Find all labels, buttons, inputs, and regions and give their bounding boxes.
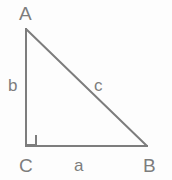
vertex-label-c: C [19, 156, 33, 175]
side-label-c: c [94, 77, 103, 94]
right-triangle-diagram: A C B b c a [0, 0, 172, 180]
side-label-b: b [8, 77, 17, 94]
side-label-a: a [74, 157, 83, 174]
triangle-graphic [0, 0, 172, 180]
right-angle-marker-icon [27, 136, 36, 145]
vertex-label-b: B [143, 156, 156, 175]
vertex-label-a: A [19, 4, 32, 23]
side-c-line [26, 29, 147, 146]
